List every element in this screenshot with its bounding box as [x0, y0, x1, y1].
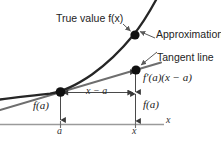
true-value-leader-line: [123, 24, 131, 31]
tangent-line-label: Tangent line: [157, 52, 214, 63]
x-minus-a-label: x − a: [86, 86, 107, 96]
derivative-term-label: f′(a)(x − a): [143, 72, 192, 83]
approximation-leader-line: [140, 32, 155, 39]
true-value-label: True value f(x): [56, 13, 123, 24]
tick-label-x: x: [132, 126, 136, 136]
tangency-point-dot: [56, 87, 66, 97]
tick-label-a: a: [57, 126, 62, 136]
true-value-point-dot: [130, 30, 139, 39]
f-of-a-right-label: f(a): [143, 99, 159, 110]
x-axis-label: x: [166, 115, 170, 125]
approximation-label: Approximation: [156, 29, 221, 40]
approximation-point-dot: [131, 65, 140, 74]
tangent-line-leader-line: [141, 52, 157, 65]
f-of-a-left-label: f(a): [33, 100, 49, 111]
linear-approximation-figure: True value f(x) Approximation Tangent li…: [0, 0, 221, 141]
